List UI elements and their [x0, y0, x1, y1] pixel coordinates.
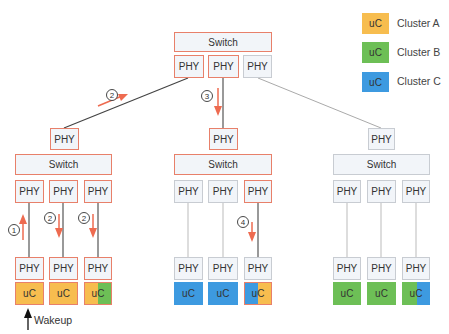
- wakeup-arrow: [24, 308, 32, 330]
- wakeup-label: Wakeup: [34, 314, 72, 326]
- middle-uplink-phy: PHY: [209, 128, 238, 150]
- right-node-phy-1: PHY: [333, 257, 361, 280]
- left-node-phy-1: PHY: [15, 257, 44, 280]
- svg-text:2: 2: [48, 214, 53, 223]
- left-uc-1: uC: [15, 282, 44, 305]
- right-uplink-phy: PHY: [368, 128, 395, 150]
- svg-text:4: 4: [241, 218, 246, 227]
- left-uplink-phy: PHY: [50, 128, 79, 150]
- right-port-phy-2: PHY: [367, 180, 396, 203]
- right-node-phy-3: PHY: [402, 257, 430, 280]
- legend-label-cluster-a: Cluster A: [397, 17, 440, 29]
- top-phy-3: PHY: [243, 55, 272, 78]
- middle-node-phy-3: PHY: [244, 257, 272, 280]
- svg-text:1: 1: [12, 226, 17, 235]
- right-uc-2: uC: [367, 282, 396, 305]
- middle-uc-2: uC: [208, 282, 238, 305]
- right-switch: Switch: [333, 154, 430, 175]
- top-switch: Switch: [174, 32, 272, 52]
- legend-swatch-cluster-b: uC: [362, 42, 389, 63]
- middle-uc-3: uC: [244, 282, 272, 305]
- middle-node-phy-2: PHY: [208, 257, 238, 280]
- svg-text:2: 2: [82, 214, 87, 223]
- legend-label-cluster-b: Cluster B: [397, 46, 440, 58]
- middle-port-phy-1: PHY: [174, 180, 203, 203]
- legend-swatch-cluster-a: uC: [362, 13, 389, 34]
- arrow-step2b-down: [89, 214, 97, 238]
- left-port-phy-2: PHY: [49, 180, 78, 203]
- middle-port-phy-2: PHY: [208, 180, 238, 203]
- left-uc-3: uC: [84, 282, 112, 305]
- right-node-phy-2: PHY: [367, 257, 396, 280]
- left-port-phy-3: PHY: [84, 180, 112, 203]
- left-port-phy-1: PHY: [15, 180, 44, 203]
- left-node-phy-3: PHY: [84, 257, 112, 280]
- left-switch: Switch: [15, 154, 112, 175]
- svg-text:3: 3: [205, 92, 210, 101]
- left-node-phy-2: PHY: [49, 257, 78, 280]
- svg-text:2: 2: [110, 91, 115, 100]
- middle-switch: Switch: [174, 154, 272, 175]
- arrow-step2a-down: [55, 214, 63, 238]
- legend-label-cluster-c: Cluster C: [397, 75, 441, 87]
- arrow-step3-down: [214, 88, 222, 116]
- middle-uc-1: uC: [174, 282, 203, 305]
- arrow-step4-down: [248, 222, 256, 242]
- right-port-phy-3: PHY: [402, 180, 430, 203]
- legend-swatch-cluster-c: uC: [362, 72, 389, 92]
- middle-port-phy-3: PHY: [244, 180, 272, 203]
- arrow-step1-up: [19, 214, 27, 240]
- left-uc-2: uC: [49, 282, 78, 305]
- right-uc-1: uC: [333, 282, 361, 305]
- top-phy-1: PHY: [174, 55, 204, 78]
- right-port-phy-1: PHY: [333, 180, 361, 203]
- middle-node-phy-1: PHY: [174, 257, 203, 280]
- right-uc-3: uC: [402, 282, 430, 305]
- top-phy-2: PHY: [208, 55, 239, 78]
